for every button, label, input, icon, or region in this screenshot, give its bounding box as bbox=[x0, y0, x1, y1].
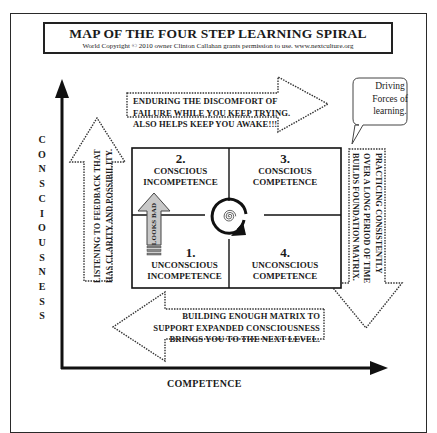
right-arrow-line: BUILDS FOUNDATION MATRIX. bbox=[350, 153, 362, 285]
top-arrow-text: ENDURING THE DISCOMFORT OF FAILURE WHILE… bbox=[133, 96, 290, 131]
top-arrow-line: ALSO HELPS KEEP YOU AWAKE!!! bbox=[133, 119, 290, 131]
y-label-letter: N bbox=[35, 265, 49, 280]
quadrant-line: UNCONSCIOUS bbox=[140, 260, 229, 271]
y-axis bbox=[55, 79, 69, 369]
quadrant-number: 3. bbox=[229, 152, 341, 166]
quadrant-line: COMPETENCE bbox=[229, 177, 341, 188]
top-arrow-line: ENDURING THE DISCOMFORT OF bbox=[133, 96, 290, 108]
y-label-letter: C bbox=[35, 192, 49, 207]
left-arrow-text: LISTENING TO FEEDBACK THAT HAS CLARITY A… bbox=[92, 159, 116, 283]
y-label-letter: S bbox=[35, 177, 49, 192]
bottom-arrow-line: SUPPORT EXPANDED CONSCIOUSNESS bbox=[140, 323, 320, 335]
y-label-letter: S bbox=[35, 309, 49, 324]
quadrant-line: CONSCIOUS bbox=[229, 166, 341, 177]
quadrant-number: 4. bbox=[229, 246, 341, 260]
x-axis-label: COMPETENCE bbox=[167, 378, 242, 389]
bottom-arrow-line: BRINGS YOU TO THE NEXT LEVEL. bbox=[140, 334, 320, 346]
callout-line: learning. bbox=[361, 105, 419, 118]
y-label-letter: E bbox=[35, 280, 49, 295]
quadrant-line: COMPETENCE bbox=[229, 271, 341, 282]
quadrant-line: INCOMPETENCE bbox=[132, 177, 229, 188]
left-arrow-line: HAS CLARITY AND POSSIBILITY. bbox=[104, 159, 116, 283]
quadrant-1-label: 1. UNCONSCIOUS INCOMPETENCE bbox=[140, 246, 229, 282]
looks-bad-label: LOOKS BAD bbox=[149, 202, 159, 246]
y-label-letter: O bbox=[35, 221, 49, 236]
bottom-arrow-text: BUILDING ENOUGH MATRIX TO SUPPORT EXPAND… bbox=[140, 311, 320, 346]
top-arrow-line: FAILURE WHILE YOU KEEP TRYING. bbox=[133, 108, 290, 120]
y-label-letter: U bbox=[35, 236, 49, 251]
quadrant-line: UNCONSCIOUS bbox=[229, 260, 341, 271]
right-arrow-line: PRACTICING CONSISTENTLY bbox=[373, 153, 385, 285]
quadrant-line: INCOMPETENCE bbox=[140, 271, 229, 282]
y-label-letter: C bbox=[35, 133, 49, 148]
y-label-letter: S bbox=[35, 295, 49, 310]
quadrant-2-label: 2. CONSCIOUS INCOMPETENCE bbox=[132, 152, 229, 188]
x-axis bbox=[61, 361, 388, 375]
right-arrow-line: OVER A LONG PERIOD OF TIME bbox=[361, 153, 373, 285]
callout-line: Forces of bbox=[361, 93, 419, 106]
quadrant-3-label: 3. CONSCIOUS COMPETENCE bbox=[229, 152, 341, 188]
bottom-arrow-line: BUILDING ENOUGH MATRIX TO bbox=[140, 311, 320, 323]
quadrant-4-label: 4. UNCONSCIOUS COMPETENCE bbox=[229, 246, 341, 282]
callout-text: Driving Forces of learning. bbox=[361, 80, 419, 118]
y-label-letter: S bbox=[35, 251, 49, 266]
quadrant-line: CONSCIOUS bbox=[132, 166, 229, 177]
right-arrow-text: PRACTICING CONSISTENTLY OVER A LONG PERI… bbox=[348, 153, 384, 285]
left-arrow-line: LISTENING TO FEEDBACK THAT bbox=[92, 159, 104, 283]
y-label-letter: N bbox=[35, 162, 49, 177]
quadrant-number: 1. bbox=[140, 246, 229, 260]
y-label-letter: I bbox=[35, 207, 49, 222]
callout-line: Driving bbox=[361, 80, 419, 93]
quadrant-number: 2. bbox=[132, 152, 229, 166]
y-label-letter: O bbox=[35, 148, 49, 163]
